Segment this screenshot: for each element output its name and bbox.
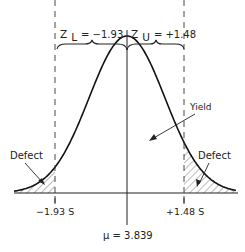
arrowhead-icon xyxy=(149,134,157,141)
defect-right-label: Defect xyxy=(198,150,231,161)
yield-label: Yield xyxy=(189,102,211,112)
bell-curve xyxy=(14,36,236,191)
defect-area-left xyxy=(14,36,236,193)
defect-area-right xyxy=(14,36,236,193)
defect-left-label: Defect xyxy=(10,150,43,161)
lower-limit-value: −1.93 S xyxy=(36,206,74,217)
normal-curve-diagram: ZL= −1.93 ZU= +1.48 Defect Defect Yield … xyxy=(0,0,245,252)
mean-value-label: μ = 3.839 xyxy=(103,230,153,241)
upper-limit-value: +1.48 S xyxy=(166,206,204,217)
brace-upper xyxy=(127,40,184,50)
z-upper-label: ZU= +1.48 xyxy=(131,28,196,43)
